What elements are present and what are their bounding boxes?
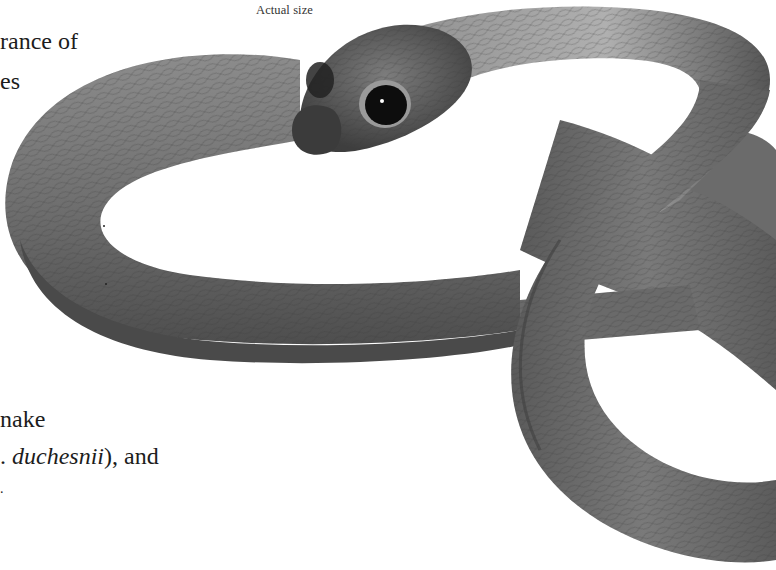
text-suffix: ), and (104, 443, 159, 469)
snake-neck (360, 6, 770, 230)
body-text-line: . (0, 474, 4, 504)
snake-body-right-coil (520, 120, 776, 390)
snake-body-left-loop (5, 54, 520, 363)
snake-photograph (0, 0, 776, 570)
body-text-line: es (0, 66, 20, 96)
body-text-line-species: . duchesnii), and (0, 441, 159, 471)
figure-caption: Actual size (256, 3, 313, 18)
species-name: duchesnii (12, 443, 104, 469)
body-text-line: rance of (0, 26, 78, 56)
text-prefix: . (0, 443, 12, 469)
snake-body-front-loop (511, 80, 776, 562)
snake-head (292, 25, 472, 155)
body-text-line: nake (0, 404, 45, 434)
snake-eye (365, 85, 407, 125)
